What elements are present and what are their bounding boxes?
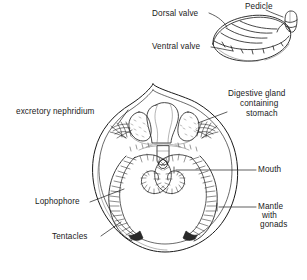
label-digestive-gland: Digestive gland bbox=[228, 89, 285, 99]
tentacles-left-inner bbox=[140, 154, 172, 194]
tentacles-left-outer bbox=[110, 157, 136, 235]
brachiopod-anatomy-figure: Dorsal valve Pedicle Ventral valve excre… bbox=[0, 0, 307, 280]
label-tentacles: Tentacles bbox=[52, 232, 88, 242]
label-mantle-line3: gonads bbox=[260, 220, 287, 230]
shell-drawing bbox=[213, 11, 297, 61]
label-mouth: Mouth bbox=[258, 165, 281, 175]
label-lophophore: Lophophore bbox=[35, 197, 80, 207]
label-digestive-gland-line2: containing bbox=[240, 99, 278, 109]
label-excretory-nephridium: excretory nephridium bbox=[16, 107, 94, 117]
label-ventral-valve: Ventral valve bbox=[152, 42, 200, 52]
label-digestive-gland-line3: stomach bbox=[246, 109, 278, 119]
label-pedicle: Pedicle bbox=[245, 2, 273, 12]
tentacles-right-inner bbox=[154, 154, 186, 194]
label-dorsal-valve: Dorsal valve bbox=[152, 9, 198, 19]
